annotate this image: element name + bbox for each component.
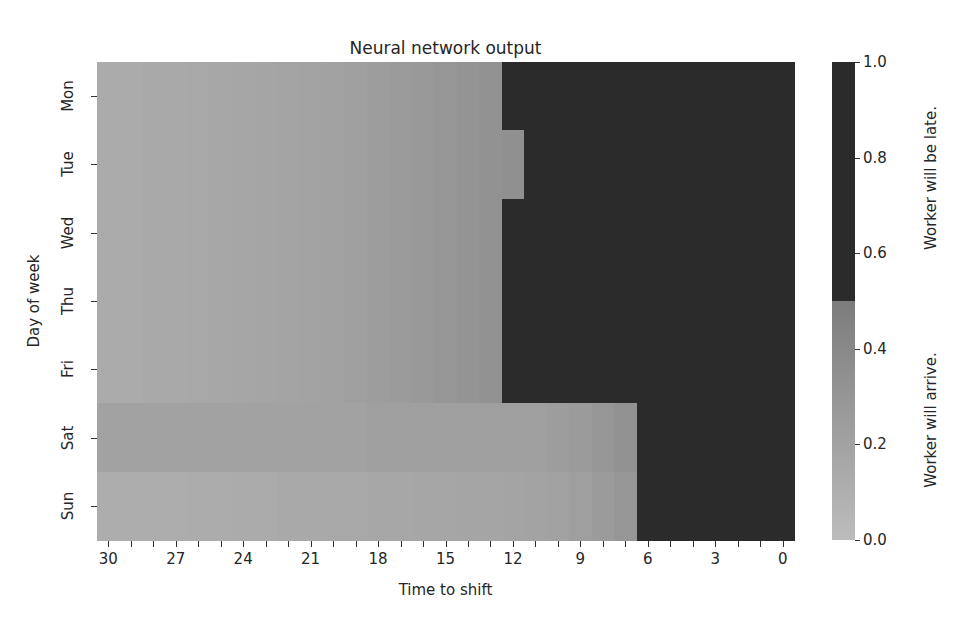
heatmap-cell [772,130,795,199]
y-tick-label-tue: Tue [59,152,77,178]
heatmap-cell [727,62,750,131]
heatmap-cell [592,472,615,541]
heatmap-cell [524,335,547,404]
heatmap-cell [727,199,750,268]
x-tick-mark [288,541,289,547]
colorbar-tick-label: 0.6 [863,244,887,262]
x-tick-mark [580,541,581,547]
heatmap-cell [142,403,165,472]
heatmap-cell [772,403,795,472]
heatmap-cell [614,335,637,404]
heatmap-cell [187,267,210,336]
y-tick-label-thu: Thu [59,287,77,315]
heatmap-cell [322,267,345,336]
heatmap-cell [254,403,277,472]
heatmap-cell [389,403,412,472]
heatmap-cell [772,267,795,336]
heatmap-cell [322,403,345,472]
heatmap-cell [479,335,502,404]
colorbar-low-segment [832,301,855,540]
heatmap-cell [277,199,300,268]
x-axis-title: Time to shift [97,581,794,599]
x-tick-label: 24 [234,550,253,568]
heatmap-cell [524,199,547,268]
heatmap-cell [614,403,637,472]
x-tick-mark [176,541,177,547]
heatmap-cell [389,267,412,336]
x-tick-mark [625,541,626,547]
heatmap-cell [277,335,300,404]
heatmap-cell [772,335,795,404]
heatmap-cell [389,130,412,199]
colorbar-tick-mark [855,444,860,445]
heatmap-cell [569,403,592,472]
heatmap-cell [727,267,750,336]
heatmap-cell [119,62,142,131]
heatmap-cell [749,199,772,268]
heatmap-cell [322,472,345,541]
x-tick-mark [738,541,739,547]
heatmap-cell [434,267,457,336]
x-tick-mark [783,541,784,547]
heatmap-cell [209,130,232,199]
heatmap-cell [457,267,480,336]
x-tick-label: 6 [643,550,653,568]
x-tick-mark [243,541,244,547]
heatmap-cell [637,472,660,541]
heatmap-cell [277,403,300,472]
y-tick-label-sun: Sun [59,492,77,521]
colorbar-label-low: Worker will arrive. [922,352,940,487]
x-tick-label: 15 [436,550,455,568]
heatmap-cell [412,267,435,336]
heatmap-cell [547,335,570,404]
heatmap-cell [412,472,435,541]
x-tick-mark [401,541,402,547]
heatmap-cell [254,130,277,199]
heatmap-cell [299,335,322,404]
colorbar-tick-mark [855,62,860,63]
heatmap-cell [232,130,255,199]
heatmap-cell [569,472,592,541]
heatmap-cell [682,267,705,336]
heatmap-cell [187,472,210,541]
heatmap-cell [344,403,367,472]
x-tick-mark [468,541,469,547]
heatmap-cell [299,62,322,131]
colorbar-tick-mark [855,158,860,159]
heatmap-cell [254,267,277,336]
y-axis-title: Day of week [25,254,43,347]
y-tick-mark [91,96,97,97]
heatmap-cell [547,62,570,131]
heatmap-cell [569,267,592,336]
x-tick-mark [715,541,716,547]
heatmap-cell [344,62,367,131]
heatmap-cell [682,472,705,541]
heatmap-cell [344,199,367,268]
heatmap-cell [142,199,165,268]
heatmap-cell [749,62,772,131]
heatmap-cell [389,199,412,268]
heatmap-cell [479,403,502,472]
heatmap-cell [659,267,682,336]
heatmap-cell [772,472,795,541]
heatmap-cell [232,335,255,404]
heatmap-cell [142,335,165,404]
x-tick-label: 30 [99,550,118,568]
heatmap-cell [367,472,390,541]
heatmap-cell [187,130,210,199]
heatmap-cell [547,130,570,199]
heatmap-cell [119,403,142,472]
heatmap-cell [367,62,390,131]
heatmap-cell [457,130,480,199]
heatmap-cell [164,472,187,541]
heatmap-cell [502,62,525,131]
heatmap-cell [479,199,502,268]
heatmap-cell [209,62,232,131]
heatmap-cell [772,62,795,131]
heatmap-cell [344,130,367,199]
heatmap-cell [637,403,660,472]
heatmap-cell [457,472,480,541]
heatmap-cell [479,267,502,336]
colorbar-tick-label: 1.0 [863,53,887,71]
colorbar-tick-mark [855,349,860,350]
